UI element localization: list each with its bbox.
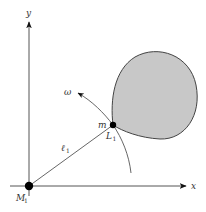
svg-text:ℓ: ℓ (61, 143, 65, 153)
m1-label: M 1 (15, 193, 28, 204)
segment-l1 (29, 125, 113, 186)
l1-label: L 1 (105, 131, 116, 142)
svg-text:1: 1 (66, 147, 70, 154)
svg-text:1: 1 (113, 135, 117, 142)
origin-point-m1 (25, 182, 33, 190)
omega-label: ω (64, 87, 72, 97)
svg-text:1: 1 (24, 197, 28, 204)
diagram-canvas: y x ω m L 1 ℓ 1 M 1 (0, 0, 206, 212)
y-axis-label: y (25, 8, 32, 18)
segment-label: ℓ 1 (61, 143, 70, 154)
mass-label: m (98, 120, 107, 130)
x-axis-label: x (191, 181, 196, 191)
lagrange-point-l1 (110, 122, 116, 128)
shaded-region (112, 52, 197, 139)
svg-text:L: L (105, 131, 112, 141)
